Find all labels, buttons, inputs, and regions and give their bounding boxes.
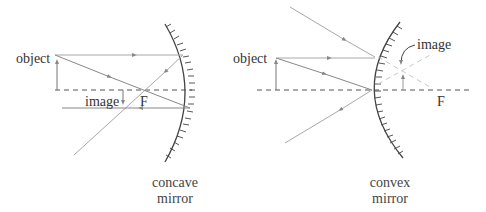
convex-mirror-hatching bbox=[375, 26, 403, 154]
image-pointer-arrow bbox=[401, 45, 415, 63]
convex-focal-label: F bbox=[437, 94, 445, 109]
concave-diagram bbox=[55, 24, 195, 162]
concave-object-label: object bbox=[16, 51, 50, 66]
concave-focal-label: F bbox=[140, 94, 148, 109]
concave-image-label: image bbox=[85, 94, 119, 109]
convex-caption: convex mirror bbox=[355, 175, 425, 207]
convex-image-label: image bbox=[417, 37, 451, 52]
convex-object-label: object bbox=[233, 51, 267, 66]
concave-mirror bbox=[165, 24, 185, 162]
concave-caption: concave mirror bbox=[140, 175, 210, 207]
convex-diagram bbox=[257, 7, 470, 158]
concave-mirror-hatching bbox=[166, 24, 195, 158]
